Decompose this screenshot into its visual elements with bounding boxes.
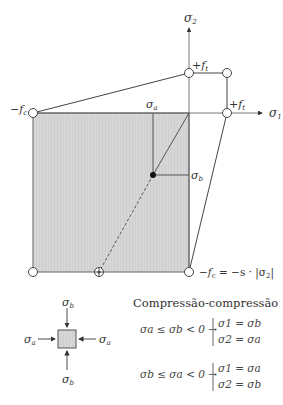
sigma1-label: σ1 — [269, 106, 282, 121]
case1-line2: σ2 = σa — [218, 333, 261, 345]
vertex-bottom-left — [29, 268, 38, 277]
element-top-label: σb — [62, 296, 75, 310]
element-right-label: σa — [99, 333, 111, 347]
envelope-right-slant — [189, 113, 227, 272]
element-bottom-label: σb — [62, 373, 75, 387]
compression-region — [33, 113, 189, 272]
element-left-label: σa — [24, 333, 36, 347]
vertex-bottom-right — [185, 268, 194, 277]
failure-envelope-diagram: σ1 σ2 −fc +ft +ft σa σb −fc = −s · |σ2| … — [0, 0, 283, 405]
fc-bottom-label: −fc = −s · |σ2| — [199, 266, 274, 280]
vertex-top-right — [223, 69, 232, 78]
stress-point — [150, 172, 156, 178]
case1-line1: σ1 = σb — [218, 317, 261, 329]
sigma-b-label: σb — [191, 169, 204, 183]
sigma-a-label: σa — [146, 98, 158, 112]
case1-condition: σa ≤ σb < 0 → — [140, 323, 217, 335]
ft-top-label: +ft — [192, 59, 208, 73]
vertex-fc-left — [29, 109, 38, 118]
case2-line2: σ2 = σb — [218, 378, 261, 390]
sigma2-label: σ2 — [184, 11, 197, 26]
legend-title: Compressão-compressão — [133, 296, 278, 310]
ft-right-label: +ft — [229, 98, 245, 112]
failure-point-icon — [95, 268, 104, 277]
fc-left-label: −fc — [10, 103, 27, 117]
stress-element — [38, 308, 96, 370]
case2-line1: σ1 = σa — [218, 362, 261, 374]
envelope-top-left — [33, 73, 189, 113]
case2-condition: σb ≤ σa < 0 → — [140, 368, 217, 380]
